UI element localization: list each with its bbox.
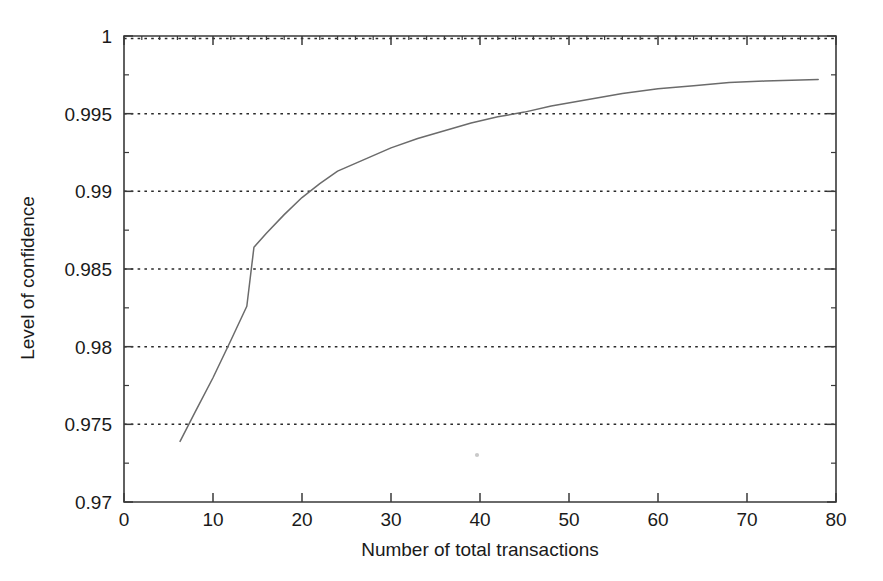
x-tick-label: 80 (825, 509, 846, 530)
y-tick-label: 0.97 (75, 492, 112, 513)
x-tick-label: 60 (647, 509, 668, 530)
x-axis-title: Number of total transactions (361, 539, 599, 560)
y-tick-label: 0.995 (64, 104, 112, 125)
grid-lines (124, 39, 836, 425)
data-series (180, 79, 818, 441)
y-tick-label: 0.975 (64, 414, 112, 435)
scan-artifact-speck (475, 453, 479, 457)
x-tick-label: 40 (469, 509, 490, 530)
y-tick-label: 1 (101, 26, 112, 47)
line-chart: 01020304050607080 0.970.9750.980.9850.99… (0, 0, 883, 581)
chart-page: 01020304050607080 0.970.9750.980.9850.99… (0, 0, 883, 581)
y-tick-label: 0.99 (75, 181, 112, 202)
x-axis-tick-labels: 01020304050607080 (119, 509, 847, 530)
x-tick-label: 20 (291, 509, 312, 530)
series-line (180, 79, 818, 441)
y-axis-tick-labels: 0.970.9750.980.9850.990.9951 (64, 26, 112, 513)
x-tick-label: 70 (736, 509, 757, 530)
x-tick-label: 50 (558, 509, 579, 530)
x-tick-label: 10 (202, 509, 223, 530)
x-tick-label: 30 (380, 509, 401, 530)
y-axis-title: Level of confidence (17, 196, 38, 360)
y-tick-label: 0.985 (64, 259, 112, 280)
y-tick-label: 0.98 (75, 337, 112, 358)
x-tick-label: 0 (119, 509, 130, 530)
